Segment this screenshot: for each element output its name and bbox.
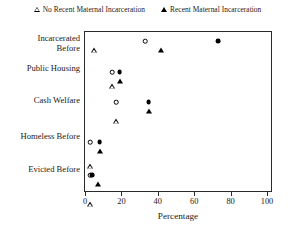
category-axis-labels: Incarcerated Before Public Housing Cash …	[0, 31, 80, 192]
data-point	[117, 79, 123, 84]
data-point	[117, 70, 122, 75]
triangle-filled-icon	[161, 7, 167, 12]
x-tick-mark	[158, 192, 159, 196]
category-label-incarcerated-before: Incarcerated Before	[0, 33, 80, 53]
x-tick-label: 40	[154, 197, 162, 207]
category-label-cash-welfare: Cash Welfare	[0, 95, 80, 105]
data-marker-layer	[84, 31, 272, 192]
x-axis-ticks: 020406080100	[0, 192, 295, 210]
x-axis-title: Percentage	[84, 211, 272, 222]
category-label-public-housing: Public Housing	[0, 63, 80, 73]
legend-label-no-recent: No Recent Maternal Incarceration	[43, 5, 145, 14]
data-point	[97, 140, 102, 145]
data-point	[110, 70, 115, 75]
data-point	[113, 119, 119, 124]
x-tick-mark	[267, 192, 268, 196]
x-tick-label: 0	[83, 197, 87, 207]
data-point	[143, 39, 148, 44]
x-tick-label: 100	[261, 197, 274, 207]
triangle-open-icon	[34, 7, 40, 12]
data-point	[146, 109, 152, 114]
data-point	[88, 140, 93, 145]
data-point	[146, 100, 151, 105]
category-label-evicted-before: Evicted Before	[0, 164, 80, 174]
data-point	[215, 39, 220, 44]
data-point	[91, 48, 97, 53]
x-tick-label: 80	[226, 197, 234, 207]
x-tick-mark	[85, 192, 86, 196]
data-point	[90, 173, 95, 178]
data-point	[87, 164, 93, 169]
x-tick-label: 20	[117, 197, 125, 207]
data-point	[114, 100, 119, 105]
x-tick-mark	[231, 192, 232, 196]
legend-label-recent: Recent Maternal Incarceration	[170, 5, 261, 14]
category-label-homeless-before: Homeless Before	[0, 131, 80, 141]
scatter-chart: No Recent Maternal Incarceration Recent …	[0, 0, 295, 243]
data-point	[97, 149, 103, 154]
legend-entry-recent: Recent Maternal Incarceration	[161, 5, 261, 14]
data-point	[95, 182, 101, 187]
chart-legend: No Recent Maternal Incarceration Recent …	[0, 2, 295, 16]
x-tick-mark	[194, 192, 195, 196]
x-tick-label: 60	[190, 197, 198, 207]
data-point	[158, 48, 164, 53]
x-tick-mark	[121, 192, 122, 196]
legend-entry-no-recent: No Recent Maternal Incarceration	[34, 5, 145, 14]
data-point	[109, 84, 115, 89]
